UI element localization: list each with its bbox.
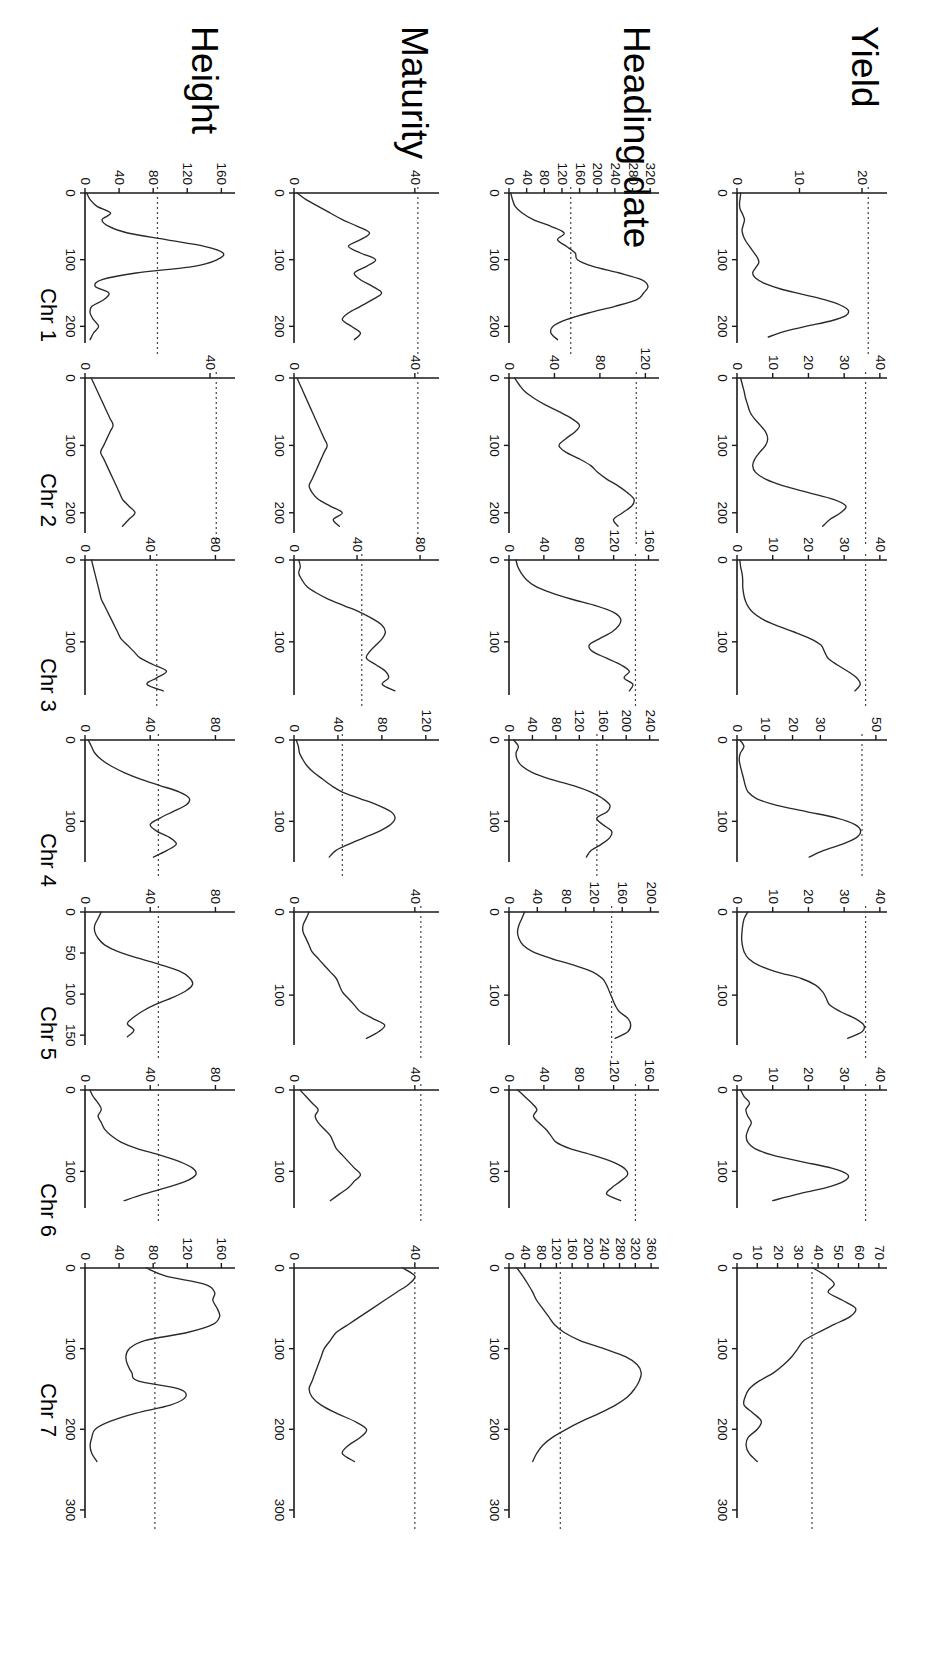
y-tick-label: 40 <box>143 889 157 904</box>
x-tick-label: 0 <box>64 1264 78 1272</box>
panel-yield-chr3: 0100010203040 <box>737 560 887 695</box>
y-tick-label: 30 <box>837 1067 851 1082</box>
x-tick-label: 0 <box>716 189 730 197</box>
x-tick-label: 0 <box>273 556 287 564</box>
x-tick-label: 100 <box>488 984 502 1007</box>
x-tick-label: 0 <box>488 374 502 382</box>
panel-heading-date-chr5: 010004080120160200 <box>509 912 659 1045</box>
x-tick-label: 200 <box>488 502 502 525</box>
y-tick-label: 40 <box>526 717 540 732</box>
y-tick-label: 10 <box>766 355 780 370</box>
lod-curve <box>297 193 382 340</box>
panel-height-chr5: 05010015004080 <box>85 912 235 1045</box>
y-tick-label: 120 <box>607 529 621 552</box>
y-tick-label: 30 <box>791 1245 805 1260</box>
x-tick-label: 100 <box>64 810 78 833</box>
x-tick-label: 0 <box>488 908 502 916</box>
y-tick-label: 160 <box>596 709 610 732</box>
x-tick-label: 0 <box>716 1264 730 1272</box>
y-tick-label: 10 <box>766 537 780 552</box>
y-tick-label: 20 <box>802 889 816 904</box>
panel-height-chr4: 010004080 <box>85 740 235 862</box>
y-tick-label: 20 <box>802 537 816 552</box>
panel-height-chr6: 010004080 <box>85 1090 235 1208</box>
panel-height-chr7: 010020030004080120160 <box>85 1268 235 1518</box>
y-tick-label: 70 <box>872 1245 886 1260</box>
y-tick-label: 50 <box>832 1245 846 1260</box>
x-tick-label: 200 <box>716 315 730 338</box>
y-tick-label: 80 <box>209 717 223 732</box>
lod-curve <box>511 193 648 340</box>
y-tick-label: 120 <box>181 162 195 185</box>
x-tick-label: 0 <box>64 736 78 744</box>
y-tick-label: 80 <box>593 355 607 370</box>
y-tick-label: 160 <box>642 529 656 552</box>
x-tick-label: 0 <box>716 908 730 916</box>
x-tick-label: 100 <box>488 631 502 654</box>
y-tick-label: 200 <box>591 162 605 185</box>
x-tick-label: 0 <box>488 189 502 197</box>
y-tick-label: 40 <box>350 537 364 552</box>
x-tick-label: 100 <box>64 1337 78 1360</box>
lod-curve <box>739 740 860 857</box>
y-tick-label: 80 <box>572 1067 586 1082</box>
lod-curve <box>297 378 342 526</box>
x-tick-label: 0 <box>64 556 78 564</box>
lod-curve <box>744 1268 856 1462</box>
y-tick-label: 40 <box>873 537 887 552</box>
y-tick-label: 10 <box>766 1067 780 1082</box>
y-tick-label: 0 <box>730 1252 744 1260</box>
lod-curve <box>88 740 189 857</box>
y-tick-label: 80 <box>209 537 223 552</box>
x-tick-label: 0 <box>716 1086 730 1094</box>
x-tick-label: 200 <box>273 502 287 525</box>
panel-maturity-chr1: 0100200040 <box>294 193 439 343</box>
panel-height-chr1: 010020004080120160 <box>85 193 235 343</box>
x-tick-label: 150 <box>64 1024 78 1047</box>
x-tick-label: 100 <box>488 1160 502 1183</box>
y-tick-label: 40 <box>203 355 217 370</box>
lod-curve <box>515 378 635 526</box>
qtl-genome-scan-figure: Yield Heading date Maturity Height Chr 1… <box>0 0 947 1663</box>
x-tick-label: 100 <box>64 983 78 1006</box>
x-tick-label: 100 <box>64 631 78 654</box>
panel-yield-chr7: 0100200300010203040506070 <box>737 1268 887 1518</box>
y-tick-label: 80 <box>146 170 160 185</box>
y-tick-label: 80 <box>559 889 573 904</box>
y-tick-label: 40 <box>112 1245 126 1260</box>
x-tick-label: 200 <box>273 315 287 338</box>
y-tick-label: 40 <box>873 1067 887 1082</box>
x-tick-label: 0 <box>488 556 502 564</box>
y-tick-label: 40 <box>331 717 345 732</box>
y-tick-label: 20 <box>786 717 800 732</box>
x-tick-label: 0 <box>273 736 287 744</box>
y-tick-label: 40 <box>873 889 887 904</box>
x-tick-label: 100 <box>716 631 730 654</box>
x-tick-label: 100 <box>488 248 502 271</box>
y-tick-label: 240 <box>597 1237 611 1260</box>
y-tick-label: 0 <box>730 362 744 370</box>
y-tick-label: 120 <box>419 709 433 732</box>
x-tick-label: 50 <box>64 946 78 961</box>
panel-yield-chr1: 010020001020 <box>737 193 887 343</box>
y-tick-label: 120 <box>587 881 601 904</box>
x-tick-label: 0 <box>716 556 730 564</box>
lod-curve <box>516 560 633 691</box>
lod-curve <box>300 1090 360 1201</box>
x-tick-label: 100 <box>716 984 730 1007</box>
y-tick-label: 0 <box>502 177 516 185</box>
y-tick-label: 0 <box>502 1252 516 1260</box>
y-tick-label: 40 <box>408 170 422 185</box>
y-tick-label: 160 <box>215 1237 229 1260</box>
lod-curve <box>741 1090 849 1201</box>
y-tick-label: 60 <box>852 1245 866 1260</box>
lod-curve <box>303 912 385 1038</box>
y-tick-label: 30 <box>837 537 851 552</box>
x-tick-label: 0 <box>64 189 78 197</box>
y-tick-label: 80 <box>538 170 552 185</box>
y-tick-label: 0 <box>502 362 516 370</box>
row-title-maturity: Maturity <box>393 26 435 159</box>
y-tick-label: 80 <box>209 889 223 904</box>
panel-heading-date-chr4: 010004080120160200240 <box>509 740 659 862</box>
y-tick-label: 40 <box>408 1067 422 1082</box>
